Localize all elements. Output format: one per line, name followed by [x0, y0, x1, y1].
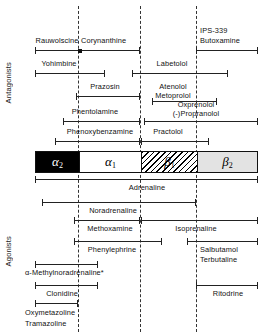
antagonist-label-labetolol: Labetolol	[157, 59, 188, 68]
agonist-label-oxymetazoline: Oxymetazoline	[25, 308, 75, 317]
agonist-label-adrenaline: Adrenaline	[129, 183, 165, 192]
antagonist-label-butoxamine: Butoxamine	[200, 36, 240, 45]
antagonist-range-practolol	[141, 141, 209, 142]
antagonist-label-phenoxybenzamine: Phenoxybenzamine	[67, 127, 134, 136]
adrenoceptor-selectivity-figure: Antagonists Agonists Rauwolscine Corynan…	[0, 0, 271, 335]
agonist-label-ritodrine: Ritodrine	[213, 289, 243, 298]
antagonist-label-corynanthine: Corynanthine	[81, 36, 126, 45]
agonist-range-adrenaline	[35, 179, 258, 180]
agonist-label-isoprenaline: Isoprenaline	[175, 224, 216, 233]
receptor-subscript-beta-1: 1	[171, 161, 175, 170]
agonist-range-noradrenaline	[42, 202, 196, 203]
receptor-subscript-alpha-2: 2	[59, 161, 63, 170]
antagonist-range-labetolol	[132, 73, 228, 74]
agonist-label-terbutaline: Terbutaline	[200, 255, 237, 264]
agonist-range-salbutamol-terbutaline	[187, 241, 258, 242]
antagonist-label-oxprenolol: Oxprenolol	[178, 100, 215, 109]
agonist-label-methoxamine: Methoxamine	[87, 224, 132, 233]
receptor-label-alpha-2: α	[52, 154, 59, 169]
antagonist-range-phenoxybenzamine	[55, 141, 140, 142]
receptor-subtype-bar: α2 α1 β1 β2	[35, 151, 258, 173]
agonist-label-clonidine: Clonidine	[46, 289, 78, 298]
antagonist-label-prazosin: Prazosin	[90, 82, 120, 91]
agonist-range-ritodrine	[196, 285, 258, 286]
axis-label-agonists: Agonists	[4, 236, 13, 266]
antagonist-label-atenolol: Atenolol	[159, 82, 187, 91]
agonist-label-tramazoline: Tramazoline	[25, 319, 67, 328]
antagonist-label-propranolol: (-)Propranolol	[173, 109, 220, 118]
receptor-label-alpha-1: α	[105, 154, 112, 169]
receptor-subscript-alpha-1: 1	[112, 161, 116, 170]
agonist-range-phenylephrine	[74, 241, 162, 242]
agonist-range-methoxamine	[74, 220, 140, 221]
antagonist-range-phentolamine	[63, 121, 140, 122]
antagonist-label-yohimbine: Yohimbine	[41, 59, 76, 68]
antagonist-label-ips-339: IPS-339	[200, 26, 227, 35]
axis-label-antagonists: Antagonists	[4, 62, 13, 103]
agonist-range-clonidine	[35, 285, 98, 286]
receptor-segment-alpha-2: α2	[36, 152, 79, 172]
antagonist-range-ips339-butoxamine	[196, 50, 258, 51]
agonist-label-salbutamol: Salbutamol	[200, 245, 238, 254]
agonist-range-isoprenaline	[141, 220, 258, 221]
agonist-label-alpha-methylnoradrenaline: α-Methylnoradrenaline*	[25, 268, 104, 277]
antagonist-range-prazosin	[76, 96, 140, 97]
range-midpoint-marker	[78, 49, 82, 53]
agonist-label-noradrenaline: Noradrenaline	[89, 206, 137, 215]
receptor-subscript-beta-2: 2	[229, 161, 233, 170]
antagonist-label-practolol: Practolol	[153, 127, 183, 136]
antagonist-label-metoprolol: Metoprolol	[155, 91, 191, 100]
agonist-range-oxymetazoline-tramazoline	[35, 303, 78, 304]
receptor-segment-alpha-1: α1	[79, 152, 141, 172]
antagonist-label-rauwolscine: Rauwolscine	[35, 36, 78, 45]
antagonist-range-rauwolscine-corynanthine	[35, 50, 140, 51]
antagonist-range-oxprenolol-propranolol	[144, 121, 258, 122]
antagonist-label-phentolamine: Phentolamine	[72, 107, 118, 116]
receptor-segment-beta-2: β2	[197, 152, 257, 172]
agonist-label-phenylephrine: Phenylephrine	[88, 245, 137, 254]
agonist-range-alpha-methylnoradrenaline	[35, 264, 98, 265]
antagonist-range-yohimbine	[35, 73, 105, 74]
receptor-segment-beta-1: β1	[141, 152, 197, 172]
